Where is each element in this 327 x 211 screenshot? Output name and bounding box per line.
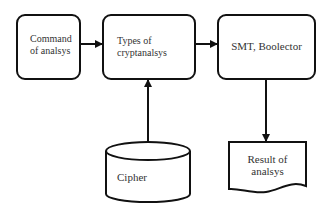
result-label: Result of analsys	[229, 153, 306, 177]
command-label: Command of analsys	[30, 33, 80, 57]
types-label: Types of cryptanalsys	[117, 35, 192, 59]
cipher-label: Cipher	[117, 171, 147, 183]
smt-label: SMT, Boolector	[218, 40, 315, 52]
diagram-canvas	[0, 0, 327, 211]
